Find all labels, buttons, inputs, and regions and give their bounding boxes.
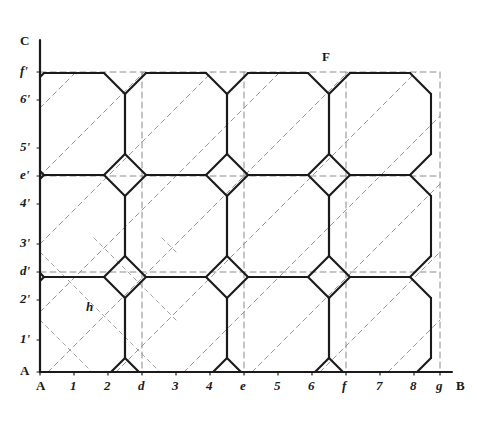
x-tick-label-e: e: [240, 379, 246, 392]
x-tick-label-d: d: [138, 379, 145, 392]
y-tick-label-5p: 5': [20, 140, 30, 153]
y-tick-label-1p: 1': [20, 332, 30, 345]
point-label-F: F: [322, 50, 330, 63]
x-tick-label-5: 5: [274, 379, 281, 392]
x-tick-label-3: 3: [172, 379, 179, 392]
x-tick-label-B: B: [456, 379, 465, 392]
point-label-h: h: [86, 300, 93, 313]
x-tick-label-4: 4: [206, 379, 213, 392]
x-tick-label-2: 2: [104, 379, 111, 392]
y-tick-label-C: C: [20, 34, 29, 47]
x-tick-label-8: 8: [410, 379, 417, 392]
geometric-pattern-svg: [0, 0, 477, 428]
y-tick-label-2p: 2': [20, 292, 30, 305]
figure-canvas: A12d34e56f78gBCf'6'5'e'4'3'd'2'1'AFh: [0, 0, 477, 428]
x-tick-label-A: A: [36, 379, 45, 392]
dashed-diagonal-lines: [40, 72, 440, 372]
dashed-grid-lines: [40, 72, 440, 372]
x-tick-label-1: 1: [70, 379, 77, 392]
axis-tick-marks: [37, 72, 440, 375]
y-tick-label-A: A: [20, 364, 29, 377]
y-tick-label-3p: 3': [20, 236, 30, 249]
y-tick-label-ep: e': [20, 168, 29, 181]
axis-lines: [40, 40, 452, 372]
y-tick-label-6p: 6': [20, 92, 30, 105]
y-tick-label-dp: d': [20, 264, 30, 277]
y-tick-label-fp: f': [20, 64, 28, 77]
x-tick-label-f: f: [342, 379, 346, 392]
x-tick-label-g: g: [436, 379, 443, 392]
y-tick-label-4p: 4': [20, 196, 30, 209]
x-tick-label-6: 6: [308, 379, 315, 392]
x-tick-label-7: 7: [376, 379, 383, 392]
